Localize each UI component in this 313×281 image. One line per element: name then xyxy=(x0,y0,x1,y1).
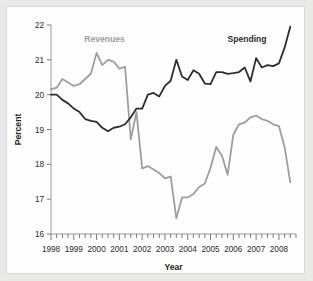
x-axis-title: Year xyxy=(164,262,183,272)
y-tick-label: 22 xyxy=(35,21,45,30)
x-tick-label: 2007 xyxy=(247,245,266,254)
chart-figure-frame: 16171819202122 1998199920002001200220032… xyxy=(6,6,305,274)
x-tick-label: 2005 xyxy=(201,245,220,254)
y-tick-label: 19 xyxy=(35,126,45,135)
y-axis-title: Percent xyxy=(13,114,23,146)
revenues-spending-line-chart: 16171819202122 1998199920002001200220032… xyxy=(7,7,304,273)
x-axis: 1998199920002001200220032004200520062007… xyxy=(42,234,296,254)
y-tick-label: 16 xyxy=(35,230,45,239)
x-tick-label: 2003 xyxy=(156,245,175,254)
y-tick-label: 21 xyxy=(35,56,45,65)
y-axis: 16171819202122 xyxy=(35,21,51,239)
x-tick-label: 2002 xyxy=(133,245,152,254)
x-tick-label: 2006 xyxy=(224,245,243,254)
y-tick-label: 20 xyxy=(35,91,45,100)
x-tick-label: 1998 xyxy=(42,245,61,254)
x-tick-label: 2004 xyxy=(179,245,198,254)
x-tick-label: 2000 xyxy=(87,245,106,254)
y-tick-label: 17 xyxy=(35,195,45,204)
series-lines xyxy=(51,27,290,219)
series-annotations: RevenuesSpending xyxy=(84,34,266,44)
series-label-spending: Spending xyxy=(227,34,266,44)
x-tick-label: 2008 xyxy=(270,245,289,254)
series-label-revenues: Revenues xyxy=(84,34,125,44)
x-tick-label: 2001 xyxy=(110,245,129,254)
y-tick-label: 18 xyxy=(35,160,45,169)
x-tick-label: 1999 xyxy=(65,245,84,254)
